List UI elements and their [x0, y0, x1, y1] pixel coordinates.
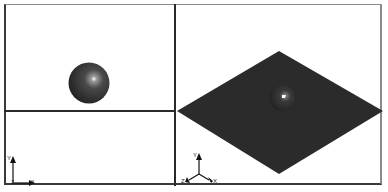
- axis-label-y: Y: [193, 152, 197, 158]
- axis-triad-isometric: Y Z X: [181, 152, 217, 184]
- ground-plane[interactable]: [177, 51, 383, 174]
- sphere-isometric[interactable]: [269, 85, 295, 111]
- sphere-front[interactable]: [69, 63, 110, 104]
- scene-canvas: Y X Z Y Z X: [0, 0, 388, 192]
- axis-label-z: Z: [181, 178, 185, 184]
- axis-label-z: Z: [11, 179, 14, 185]
- axis-triad-front: Y X Z: [7, 155, 35, 186]
- axis-label-x: X: [31, 179, 35, 185]
- axis-label-x: X: [213, 178, 217, 184]
- axis-label-y: Y: [7, 155, 11, 161]
